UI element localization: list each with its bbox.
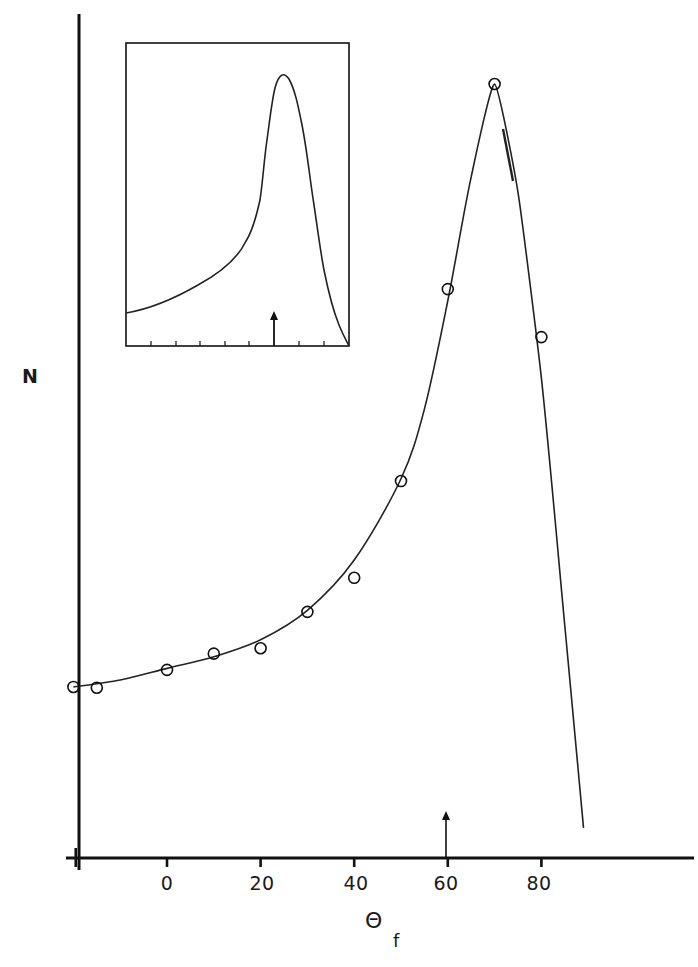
x-tick-label-0: 0 [161,872,174,894]
x-tick-label-60: 60 [433,872,458,894]
data-point [536,332,547,343]
main-chart [0,0,698,967]
data-point [302,606,313,617]
x-tick-label-80: 80 [526,872,551,894]
x-tick-label-20: 20 [249,872,274,894]
x-axis-label-subscript: f [393,930,399,951]
data-point [442,284,453,295]
x-axis-label: Θ [365,908,382,933]
x-tick-label-40: 40 [343,872,368,894]
arrow-up-icon [442,811,450,820]
y-axis-label: N [22,365,38,387]
arrow-marker-60 [442,811,450,858]
data-point [349,572,360,583]
data-point [255,643,266,654]
inset-plot [126,43,349,346]
inset-frame [126,43,349,346]
